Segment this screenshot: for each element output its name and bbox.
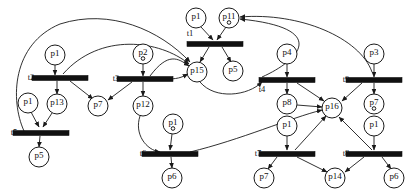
petri-net-canvas: t1t2t3t4t5t6t7t8t9 p1p1p13p7p5p2p12p1p6p… (0, 0, 406, 196)
transition-label: t5 (11, 127, 18, 137)
arc (190, 110, 322, 152)
arc (297, 157, 327, 172)
place-p11[interactable]: p11 (219, 8, 239, 28)
place-label: p13 (50, 97, 64, 107)
transition-label: t1 (187, 28, 194, 38)
arc (43, 113, 52, 127)
place-label: p7 (370, 97, 380, 107)
transition-bar[interactable] (13, 131, 69, 136)
petri-net-diagram: t1t2t3t4t5t6t7t8t9 p1p1p13p7p5p2p12p1p6p… (0, 0, 406, 196)
arc (171, 157, 172, 168)
transition-t5[interactable]: t5 (11, 127, 69, 137)
arc (39, 136, 40, 147)
transition-t7[interactable]: t7 (255, 148, 315, 158)
place-p1[interactable]: p1 (45, 45, 65, 65)
place-label: p1 (51, 48, 60, 58)
transition-t8[interactable]: t8 (343, 148, 402, 158)
place-label: p11 (222, 11, 235, 21)
arc (268, 157, 277, 169)
place-layer: p1p1p13p7p5p2p12p1p6p1p11p15p5p4p8p1p7p1… (18, 8, 404, 188)
transition-bar[interactable] (346, 152, 402, 157)
transition-bar[interactable] (259, 78, 315, 83)
place-p6[interactable]: p6 (162, 168, 182, 188)
place-p1[interactable]: p1 (18, 93, 38, 113)
place-label: p1 (24, 96, 33, 106)
transition-layer: t1t2t3t4t5t6t7t8t9 (11, 28, 402, 158)
place-label: p5 (35, 150, 45, 160)
place-p7[interactable]: p7 (364, 94, 384, 114)
place-label: p15 (190, 65, 204, 75)
place-label: p2 (139, 47, 148, 57)
transition-bar[interactable] (346, 78, 402, 83)
transition-bar[interactable] (32, 76, 88, 81)
place-label: p5 (229, 64, 239, 74)
place-label: p7 (94, 99, 104, 109)
arc (222, 47, 231, 62)
place-p7[interactable]: p7 (254, 168, 274, 188)
transition-t9[interactable]: t9 (343, 74, 402, 84)
place-p15[interactable]: p15 (187, 62, 207, 82)
place-p13[interactable]: p13 (47, 94, 67, 114)
transition-t1[interactable]: t1 (187, 28, 243, 47)
arc (382, 157, 391, 169)
place-label: p7 (260, 171, 270, 181)
place-p1[interactable]: p1 (364, 116, 384, 136)
place-label: p6 (168, 171, 178, 181)
place-label: p3 (370, 47, 380, 57)
place-label: p4 (283, 47, 293, 57)
arc (345, 157, 364, 172)
arc-layer (16, 16, 391, 172)
token-dot (141, 57, 145, 61)
transition-t2[interactable]: t2 (28, 72, 88, 82)
place-label: p12 (136, 99, 150, 109)
transition-label: t4 (259, 84, 266, 94)
transition-bar[interactable] (117, 77, 173, 82)
transition-label: t7 (255, 148, 262, 158)
place-label: p8 (283, 97, 293, 107)
arc (200, 82, 262, 94)
place-p1[interactable]: p1 (186, 8, 206, 28)
arc (240, 16, 372, 72)
token-dot (372, 107, 376, 111)
transition-label: t3 (113, 73, 120, 83)
transition-bar[interactable] (142, 152, 198, 157)
arc (201, 27, 213, 40)
arc (70, 81, 93, 99)
place-p8[interactable]: p8 (277, 94, 297, 114)
place-p14[interactable]: p14 (325, 168, 345, 188)
arc (150, 59, 189, 76)
place-p6[interactable]: p6 (384, 168, 404, 188)
transition-label: t6 (140, 148, 147, 158)
place-label: p1 (370, 119, 379, 129)
arc (31, 112, 39, 127)
place-p12[interactable]: p12 (133, 96, 153, 116)
place-p1[interactable]: p1 (277, 116, 297, 136)
arc (295, 116, 326, 150)
arc (297, 105, 322, 107)
transition-t6[interactable]: t6 (140, 148, 198, 158)
arc (297, 83, 324, 101)
arc (138, 116, 160, 152)
arc (170, 134, 172, 150)
place-label: p16 (325, 101, 339, 111)
place-p2[interactable]: p2 (133, 44, 153, 64)
place-label: p1 (169, 117, 178, 127)
transition-label: t2 (28, 72, 35, 82)
transition-label: t9 (343, 74, 350, 84)
place-p3[interactable]: p3 (364, 44, 384, 64)
place-p16[interactable]: p16 (322, 98, 342, 118)
transition-bar[interactable] (187, 42, 243, 47)
arc (217, 27, 226, 40)
place-label: p6 (390, 171, 400, 181)
place-p5[interactable]: p5 (29, 147, 49, 167)
place-p5[interactable]: p5 (223, 61, 243, 81)
place-p4[interactable]: p4 (277, 44, 297, 64)
token-dot (227, 21, 231, 25)
transition-bar[interactable] (259, 152, 315, 157)
place-label: p1 (283, 119, 292, 129)
place-p1[interactable]: p1 (163, 114, 183, 134)
token-dot (171, 127, 175, 131)
arc (342, 83, 362, 101)
transition-label: t8 (343, 148, 350, 158)
place-p7[interactable]: p7 (88, 96, 108, 116)
